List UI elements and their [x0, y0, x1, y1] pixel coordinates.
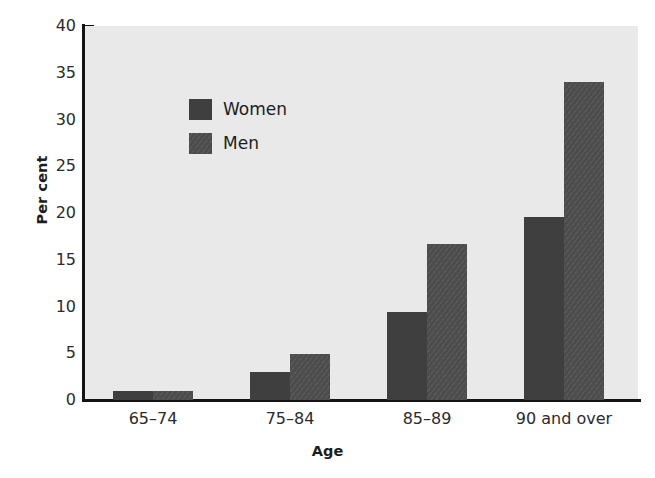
bar-men-3 [564, 82, 604, 400]
y-axis-tick-label: 10 [30, 299, 76, 315]
bar-women-0 [113, 391, 153, 400]
y-axis-tick-label: 40 [30, 18, 76, 34]
bar-women-1 [250, 372, 290, 400]
y-axis-tick-label: 20 [30, 205, 76, 221]
x-axis-tick-label: 85–89 [357, 409, 497, 428]
x-axis-title: Age [0, 443, 655, 459]
y-axis-tick-label: 5 [30, 345, 76, 361]
bar-chart: Per cent 0510152025303540 WomenMen 65–74… [0, 0, 655, 478]
y-axis-tick-label: 35 [30, 65, 76, 81]
bars-layer [85, 26, 638, 400]
x-axis-tick-label: 65–74 [83, 409, 223, 428]
bar-women-3 [524, 217, 564, 400]
bar-women-2 [387, 312, 427, 400]
y-axis-tick-label: 30 [30, 112, 76, 128]
x-axis-tick-label: 75–84 [220, 409, 360, 428]
y-axis-tick-label: 25 [30, 158, 76, 174]
y-axis-title: Per cent [34, 130, 50, 250]
y-axis-tick-label: 0 [30, 392, 76, 408]
x-axis-tick-label: 90 and over [494, 409, 634, 428]
y-axis-tick-label: 15 [30, 252, 76, 268]
bar-men-1 [290, 354, 330, 400]
bar-men-2 [427, 244, 467, 400]
bar-men-0 [153, 391, 193, 400]
